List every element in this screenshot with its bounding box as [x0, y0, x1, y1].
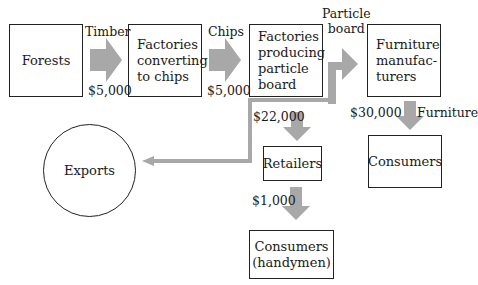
particle-board-label: Particle board — [322, 6, 371, 36]
chip-factories-label: Factories converting to chips — [137, 37, 208, 85]
furniture-label: Furniture — [417, 105, 478, 120]
furniture-value: $30,000 — [350, 105, 402, 120]
furniture-manufacturers-node: Furniture manufac- turers — [367, 24, 441, 97]
chips-label: Chips — [208, 24, 244, 39]
retailers-value: $22,000 — [253, 109, 305, 124]
chips-arrow — [209, 38, 241, 82]
chip-factories-node: Factories converting to chips — [128, 24, 202, 97]
handymen-label: Consumers (handymen) — [252, 239, 331, 271]
timber-label: Timber — [85, 24, 131, 39]
forests-node: Forests — [9, 24, 83, 97]
chips-value: $5,000 — [207, 83, 251, 98]
consumers-node: Consumers — [368, 135, 442, 188]
handymen-value: $1,000 — [252, 193, 296, 208]
handymen-node: Consumers (handymen) — [249, 230, 334, 279]
exports-arrowhead — [142, 156, 154, 166]
exports-node: Exports — [43, 124, 136, 217]
timber-value: $5,000 — [88, 83, 132, 98]
particle-board-arrow — [328, 48, 358, 104]
retailers-node: Retailers — [263, 146, 322, 181]
particle-factories-node: Factories producing particle board — [249, 24, 323, 97]
particle-factories-label: Factories producing particle board — [258, 29, 325, 93]
furniture-manufacturers-label: Furniture manufac- turers — [376, 37, 440, 85]
timber-arrow — [90, 38, 122, 82]
